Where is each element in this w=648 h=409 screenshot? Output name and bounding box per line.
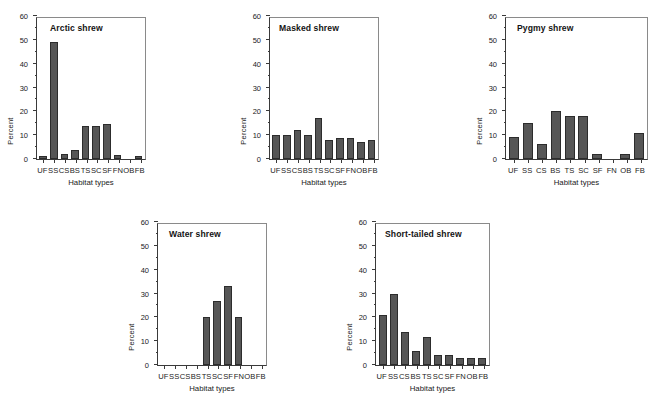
y-tick-20: 20 [266,110,270,111]
x-tick-FB [484,365,485,369]
bar-cell-FN [112,18,123,159]
bar-cell-CS [59,18,70,159]
bar-cell-UF [507,18,521,159]
y-tick-label: 10 [489,131,497,140]
y-axis-label: Percent [127,315,141,324]
x-tick-label-FB: FB [134,166,145,175]
bar-cell-CS [292,18,303,159]
x-tick-SC [330,159,331,163]
y-axis-label: Percent [239,109,253,118]
y-tick-label: 10 [141,337,149,346]
y-tick-minor [35,75,38,76]
y-tick-label: 60 [141,218,149,227]
panel-title: Pygmy shrew [517,23,574,33]
x-tick-CS [186,365,187,369]
x-tick-label-FB: FB [633,166,647,175]
y-axis-label-text: Percent [127,315,136,359]
y-tick-minor [35,27,38,28]
bar-cell-SC [577,18,591,159]
y-tick-label: 0 [145,361,149,370]
y-axis-label-text: Percent [6,109,15,153]
bar-OB [357,142,365,159]
y-tick-label: 20 [20,107,28,116]
panel-title: Water shrew [169,229,221,239]
x-tick-TS [87,159,88,163]
y-tick-label: 30 [141,289,149,298]
y-tick-minor [374,281,377,282]
bar-BS [71,150,79,159]
x-tick-OB [251,365,252,369]
x-tick-FB [262,365,263,369]
bar-CS [294,130,302,159]
bar-series [37,18,145,159]
x-tick-label-FB: FB [367,166,378,175]
y-axis-label-text: Percent [475,109,484,153]
x-tick-BS [556,159,557,163]
x-tick-SS [394,365,395,369]
x-tick-label-TS: TS [201,372,212,381]
y-tick-minor [268,51,271,52]
y-tick-20: 20 [372,316,376,317]
y-tick-label: 0 [493,155,497,164]
bar-cell-SS [521,18,535,159]
bar-CS [537,144,547,159]
x-tick-label-SS: SS [520,166,534,175]
y-tick-label: 60 [489,12,497,21]
y-tick-minor [156,281,159,282]
x-tick-FN [240,365,241,369]
x-tick-BS [197,365,198,369]
x-tick-label-SC: SC [212,372,223,381]
x-tick-label-FB: FB [255,372,266,381]
bar-cell-CS [535,18,549,159]
y-tick-50: 50 [154,245,158,246]
bar-SC [325,140,333,159]
y-tick-30: 30 [372,293,376,294]
panel-water-shrew: Percent0102030405060Water shrewUFSSCSBST… [0,0,648,409]
y-axis-label-text: Percent [239,109,248,153]
bar-cell-SC [324,18,335,159]
x-tick-SF [341,159,342,163]
y-tick-0: 0 [154,364,158,365]
bar-cell-SC [432,224,443,365]
bar-cell-FN [604,18,618,159]
x-tick-label-BS: BS [548,166,562,175]
y-tick-minor [268,98,271,99]
x-tick-TS [208,365,209,369]
y-tick-label: 30 [359,289,367,298]
panel-short-tailed-shrew: Percent0102030405060Short-tailed shrewUF… [0,0,648,409]
bar-cell-FN [455,224,466,365]
bar-cell-CS [180,224,191,365]
bar-SC [434,355,442,365]
x-tick-FB [374,159,375,163]
bar-series [158,224,266,365]
panel-arctic-shrew: Percent0102030405060Arctic shrewUFSSCSBS… [0,0,648,409]
y-tick-60: 60 [33,15,37,16]
x-tick-label-UF: UF [37,166,48,175]
panel-masked-shrew: Percent0102030405060Masked shrewUFSSCSBS… [0,0,648,409]
x-tick-UF [514,159,515,163]
y-tick-minor [156,352,159,353]
bar-TS [565,116,575,159]
x-tick-FN [352,159,353,163]
y-tick-60: 60 [266,15,270,16]
y-tick-minor [35,146,38,147]
y-tick-minor [504,75,507,76]
bar-FB [368,140,376,159]
y-tick-minor [504,146,507,147]
bar-cell-SC [212,224,223,365]
y-tick-label: 50 [253,35,261,44]
panel-title: Arctic shrew [50,23,103,33]
y-tick-minor [504,27,507,28]
bar-SF [592,154,602,159]
x-tick-SS [54,159,55,163]
y-tick-minor [504,51,507,52]
y-tick-minor [35,122,38,123]
y-tick-minor [35,51,38,52]
x-tick-labels: UFSSCSBSTSSCSFFNOBFB [157,372,267,381]
x-tick-TS [428,365,429,369]
x-tick-label-UF: UF [158,372,169,381]
x-tick-label-CS: CS [59,166,70,175]
bar-UF [272,135,280,159]
y-tick-minor [374,352,377,353]
y-tick-label: 40 [359,265,367,274]
